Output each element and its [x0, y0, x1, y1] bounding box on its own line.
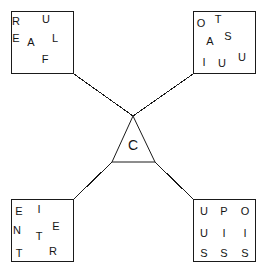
diagram-canvas: RUEALFOTASIUUEINTETRUPOUIISSS C — [0, 0, 267, 275]
center-label: C — [128, 138, 138, 152]
